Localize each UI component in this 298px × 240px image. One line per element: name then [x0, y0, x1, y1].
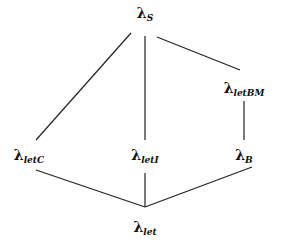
lambda-symbol: λ	[137, 5, 147, 21]
node-lambda-letBM: λletBM	[224, 81, 265, 98]
node-lambda-let: λlet	[133, 220, 156, 237]
edge-S-letBM	[157, 37, 240, 70]
lambda-symbol: λ	[14, 147, 24, 163]
node-lambda-letC: λletC	[14, 148, 44, 165]
node-subscript: B	[245, 155, 253, 165]
lattice-edges	[0, 0, 298, 240]
lambda-symbol: λ	[235, 147, 245, 163]
edge-letC-let	[36, 170, 145, 207]
edge-S-letC	[36, 33, 131, 140]
node-lambda-letI: λletI	[131, 148, 158, 165]
node-subscript: letBM	[233, 88, 264, 98]
edge-B-let	[145, 167, 252, 207]
lambda-symbol: λ	[131, 147, 141, 163]
node-subscript: let	[143, 227, 156, 237]
node-lambda-S: λS	[137, 6, 153, 23]
lambda-symbol: λ	[133, 219, 143, 235]
node-lambda-B: λB	[235, 148, 252, 165]
node-subscript: letI	[141, 155, 159, 165]
lambda-symbol: λ	[224, 80, 234, 96]
node-subscript: S	[147, 13, 154, 23]
node-subscript: letC	[24, 155, 44, 165]
